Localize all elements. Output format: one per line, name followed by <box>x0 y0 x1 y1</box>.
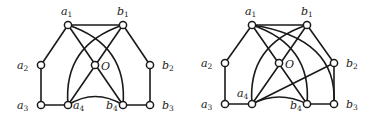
vertex-label-b1: b1 <box>117 5 129 19</box>
vertex-a1 <box>248 21 255 28</box>
vertex-a2 <box>221 59 228 66</box>
vertex-b3 <box>330 100 337 107</box>
vertex-label-b3: b3 <box>346 98 358 112</box>
vertex-label-b1: b1 <box>301 5 313 19</box>
vertex-label-a1: a1 <box>61 5 72 19</box>
vertex-label-O: O <box>101 60 110 73</box>
graph-edge <box>225 25 252 63</box>
vertex-label-a2: a2 <box>201 57 213 71</box>
vertex-b4 <box>303 100 310 107</box>
vertex-a4 <box>64 101 71 108</box>
vertex-label-a4: a4 <box>237 87 249 101</box>
vertex-a1 <box>64 21 71 28</box>
graph-edge <box>252 97 307 104</box>
left-graph: a1b1a2Ob2a3a4b4b3 <box>17 5 174 113</box>
vertex-label-b3: b3 <box>162 99 174 113</box>
vertex-b2 <box>146 61 153 68</box>
vertex-b1 <box>119 21 126 28</box>
vertex-label-a4: a4 <box>73 99 85 113</box>
right-graph: a1b1a2Ob2a3a4b4b3 <box>201 5 358 113</box>
graph-diagram-canvas: a1b1a2Ob2a3a4b4b3 a1b1a2Ob2a3a4b4b3 <box>0 0 370 120</box>
vertex-O <box>275 59 282 66</box>
vertex-O <box>91 61 98 68</box>
vertex-a4 <box>248 100 255 107</box>
vertex-a3 <box>37 101 44 108</box>
vertex-label-a3: a3 <box>201 98 213 112</box>
vertex-label-a2: a2 <box>17 59 29 73</box>
vertex-label-a3: a3 <box>17 99 29 113</box>
vertex-a3 <box>221 100 228 107</box>
graph-edge <box>123 25 150 65</box>
vertex-label-a1: a1 <box>245 5 256 19</box>
graph-edge <box>41 25 68 65</box>
vertex-b3 <box>146 101 153 108</box>
vertex-b4 <box>119 101 126 108</box>
vertex-b2 <box>330 59 337 66</box>
vertex-label-b2: b2 <box>162 59 174 73</box>
vertex-label-O: O <box>285 58 294 71</box>
vertex-b1 <box>303 21 310 28</box>
vertex-a2 <box>37 61 44 68</box>
vertex-label-b2: b2 <box>346 57 358 71</box>
